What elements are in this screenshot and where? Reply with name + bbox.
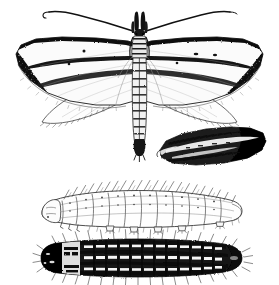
thorax [130, 36, 149, 58]
illustration-plate: Moth and larvae illustration plate [0, 0, 279, 285]
abdomen [132, 58, 147, 162]
illustration-canvas [0, 0, 279, 285]
discal-spot-inner [213, 54, 217, 56]
discal-spot-outer [194, 53, 199, 56]
